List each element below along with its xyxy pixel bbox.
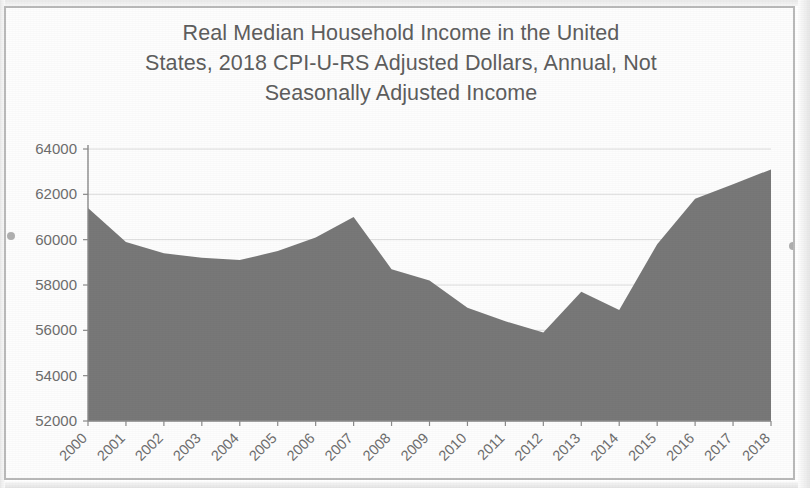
x-tick-label: 2004 xyxy=(208,430,242,464)
y-tick-label: 56000 xyxy=(35,321,77,338)
income-area-series xyxy=(88,169,771,421)
x-axis-tick-labels: 2000200120022003200420052006200720082009… xyxy=(56,430,773,464)
x-tick-label: 2001 xyxy=(94,430,128,464)
x-tick-label: 2008 xyxy=(360,430,394,464)
paper-edge-right xyxy=(798,0,810,488)
x-tick-label: 2002 xyxy=(132,430,166,464)
x-tick-label: 2000 xyxy=(56,430,90,464)
x-tick-label: 2018 xyxy=(739,430,773,464)
y-tick-label: 58000 xyxy=(35,276,77,293)
y-tick-label: 62000 xyxy=(35,185,77,202)
paper-edge-bottom xyxy=(0,482,810,488)
x-axis-tick-marks xyxy=(88,421,771,426)
x-tick-label: 2013 xyxy=(549,430,583,464)
scan-artifact-left-dot xyxy=(7,232,15,240)
y-tick-label: 52000 xyxy=(35,412,77,429)
x-tick-label: 2003 xyxy=(170,430,204,464)
chart-frame: Real Median Household Income in the Unit… xyxy=(4,6,795,480)
x-tick-label: 2007 xyxy=(322,430,356,464)
x-tick-label: 2016 xyxy=(663,430,697,464)
x-tick-label: 2017 xyxy=(701,430,735,464)
x-tick-label: 2012 xyxy=(511,430,545,464)
x-tick-label: 2006 xyxy=(284,430,318,464)
x-tick-label: 2010 xyxy=(435,430,469,464)
x-tick-label: 2005 xyxy=(246,430,280,464)
scan-artifact-right-dot xyxy=(789,242,795,250)
y-tick-label: 60000 xyxy=(35,231,77,248)
y-tick-label: 64000 xyxy=(35,140,77,157)
area-chart-plot: 52000540005600058000600006200064000 2000… xyxy=(6,8,795,480)
x-tick-label: 2009 xyxy=(397,430,431,464)
y-axis-tick-labels: 52000540005600058000600006200064000 xyxy=(35,140,77,429)
x-tick-label: 2011 xyxy=(474,430,507,463)
y-tick-label: 54000 xyxy=(35,367,77,384)
x-tick-label: 2015 xyxy=(625,430,659,464)
x-tick-label: 2014 xyxy=(587,430,621,464)
